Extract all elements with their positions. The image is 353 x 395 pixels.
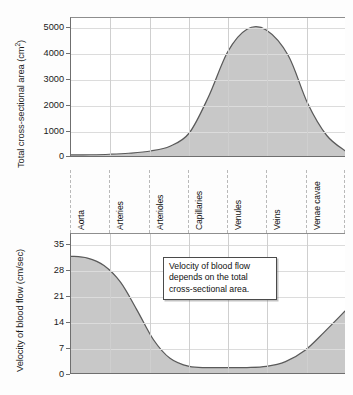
top-ytick-2000: 2000: [24, 100, 64, 110]
top-chart-plot-area: [70, 17, 345, 157]
bottom-gridline-arterioles-capillaries: [189, 234, 190, 373]
category-label-veins: Veins: [272, 209, 282, 230]
bottom-gridline-veins-venaecavae: [307, 234, 308, 373]
bottom-ytick-7: 7: [24, 343, 64, 353]
top-gridline-3000: [71, 80, 345, 81]
bottom-gridline-aorta-arteries: [110, 234, 111, 373]
cat-divider-2: [149, 170, 150, 233]
top-gridline-capillaries-venules: [228, 18, 229, 156]
category-label-aorta: Aorta: [76, 210, 86, 230]
top-y-axis-title-superscript: 2: [14, 43, 21, 47]
bottom-gridline-14: [71, 323, 345, 324]
annotation-callout: Velocity of blood flow depends on the to…: [163, 257, 277, 300]
top-ytick-1000: 1000: [24, 126, 64, 136]
vessel-category-axis: Aorta Arteries Arterioles Capillaries Ve…: [70, 170, 345, 233]
top-ytick-4000: 4000: [24, 48, 64, 58]
cat-divider-0: [70, 170, 71, 233]
figure-container: Total cross-sectional area (cm2) 5000 40…: [0, 0, 353, 395]
top-gridline-4000: [71, 54, 345, 55]
top-gridline-arterioles-capillaries: [189, 18, 190, 156]
cat-divider-6: [306, 170, 307, 233]
bottom-gridline-7: [71, 349, 345, 350]
bottom-ytick-21: 21: [24, 291, 64, 301]
bottom-ytick-0: 0: [24, 369, 64, 379]
top-chart-area-series: [71, 18, 345, 157]
cat-divider-1: [109, 170, 110, 233]
cat-divider-3: [188, 170, 189, 233]
top-ytick-0: 0: [24, 151, 64, 161]
category-label-arterioles: Arterioles: [155, 195, 165, 230]
top-gridline-2000: [71, 106, 345, 107]
top-gridline-venules-veins: [267, 18, 268, 156]
bottom-chart-plot-area: [70, 233, 345, 374]
bottom-gridline-arteries-arterioles: [150, 234, 151, 373]
bottom-ytick-35: 35: [24, 239, 64, 249]
bottom-gridline-35: [71, 245, 345, 246]
bottom-ytick-28: 28: [24, 265, 64, 275]
category-label-capillaries: Capillaries: [194, 191, 204, 230]
cat-divider-5: [266, 170, 267, 233]
top-gridline-5000: [71, 28, 345, 29]
top-gridline-aorta-arteries: [110, 18, 111, 156]
top-gridline-arteries-arterioles: [150, 18, 151, 156]
cat-divider-7: [344, 170, 345, 233]
top-gridline-veins-venaecavae: [307, 18, 308, 156]
cat-divider-4: [227, 170, 228, 233]
bottom-chart-area-series: [71, 234, 345, 374]
bottom-ytick-14: 14: [24, 317, 64, 327]
top-ytick-5000: 5000: [24, 22, 64, 32]
bottom-gridline-capillaries-venules: [228, 234, 229, 373]
top-gridline-1000: [71, 132, 345, 133]
category-label-venules: Venules: [233, 200, 243, 230]
top-ytick-3000: 3000: [24, 74, 64, 84]
category-label-venae-cavae: Venae cavae: [312, 181, 322, 230]
category-label-arteries: Arteries: [115, 201, 125, 230]
bottom-gridline-venules-veins: [267, 234, 268, 373]
bottom-ytick-mark-0: [66, 374, 70, 375]
top-y-axis-title-suffix: ): [15, 40, 26, 43]
